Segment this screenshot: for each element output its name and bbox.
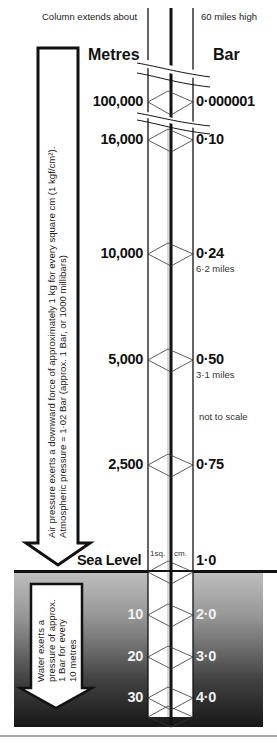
altitude-note-3-1-miles: 3·1 miles xyxy=(196,369,235,380)
top-note-right: 60 miles high xyxy=(201,11,257,22)
water-arrow-text: Water exerts a pressure of approx. 1 Bar… xyxy=(36,599,78,682)
water-arrow-text-line1: Water exerts a xyxy=(36,599,47,682)
bar-label-4-0: 4·0 xyxy=(196,689,216,705)
metres-label-100000: 100,000 xyxy=(63,93,143,109)
top-note-left: Column extends about xyxy=(42,11,137,22)
metres-label-30: 30 xyxy=(63,689,143,705)
water-arrow-text-line4: 10 metres xyxy=(68,599,79,682)
metres-header: Metres xyxy=(88,46,140,64)
bar-label-3-0: 3·0 xyxy=(196,648,216,664)
metres-label-10000: 10,000 xyxy=(63,245,143,261)
bar-label-0-50: 0·50 xyxy=(196,351,224,367)
bar-header: Bar xyxy=(213,46,240,64)
air-arrow-text-line1: Air pressure exerts a downward force of … xyxy=(46,147,57,538)
sea-level-label: Sea Level xyxy=(77,552,141,568)
bar-label-0-24: 0·24 xyxy=(196,245,224,261)
metres-label-16000: 16,000 xyxy=(63,131,143,147)
column-label-1sq: 1sq. xyxy=(150,549,165,558)
metres-label-5000: 5,000 xyxy=(63,351,143,367)
bar-label-0-10: 0·10 xyxy=(196,131,224,147)
metres-label-2500: 2,500 xyxy=(63,456,143,472)
column-label-cm: cm. xyxy=(174,549,187,558)
altitude-note-6-2-miles: 6·2 miles xyxy=(196,263,235,274)
air-arrow-text-line2: Atmospheric pressure = 1·02 Bar (approx.… xyxy=(57,147,68,538)
bar-label-0-000001: 0·000001 xyxy=(196,93,255,109)
bar-label-2-0: 2·0 xyxy=(196,606,216,622)
air-arrow-text: Air pressure exerts a downward force of … xyxy=(46,147,68,538)
bar-label-0-75: 0·75 xyxy=(196,456,224,472)
not-to-scale-note: not to scale xyxy=(199,411,248,422)
bar-label-1-0: 1·0 xyxy=(196,552,216,568)
water-arrow-text-line3: 1 Bar for every xyxy=(57,599,68,682)
